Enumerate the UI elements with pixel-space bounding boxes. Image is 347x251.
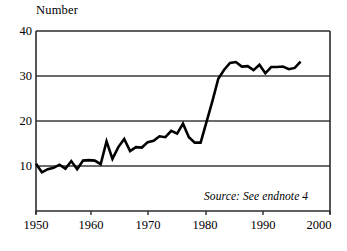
source-annotation: Source: See endnote 4	[204, 190, 308, 202]
grid-lines	[36, 76, 330, 166]
chart-figure: Number 40 30 20 10 1950 1960 1970 1980 1…	[0, 0, 347, 251]
chart-plot-area	[0, 0, 347, 251]
data-line-number	[36, 62, 301, 173]
